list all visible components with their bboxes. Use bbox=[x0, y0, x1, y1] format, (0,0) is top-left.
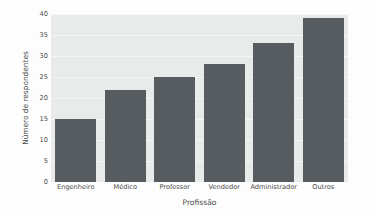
gridline bbox=[51, 14, 348, 15]
x-axis-tick-label: Administrador bbox=[250, 184, 297, 191]
bar bbox=[105, 90, 146, 182]
y-axis-tick-labels: 0510152025303540 bbox=[32, 14, 48, 182]
bar-chart-figure: Número de respondentes 0510152025303540 … bbox=[0, 0, 375, 215]
y-axis-tick-label: 40 bbox=[34, 11, 48, 18]
x-axis-tick-label: Professor bbox=[160, 184, 190, 191]
y-axis-tick-label: 5 bbox=[34, 158, 48, 165]
bar bbox=[204, 64, 245, 182]
x-axis-tick-label: Engenheiro bbox=[57, 184, 94, 191]
plot-area bbox=[51, 14, 348, 182]
bar bbox=[253, 43, 294, 182]
y-axis-tick-label: 35 bbox=[34, 32, 48, 39]
x-axis-tick-label: Vendedor bbox=[209, 184, 240, 191]
y-axis-tick-label: 15 bbox=[34, 116, 48, 123]
x-axis-tick-label: Outros bbox=[312, 184, 334, 191]
x-axis-tick-label: Médico bbox=[114, 184, 137, 191]
y-axis-tick-label: 30 bbox=[34, 53, 48, 60]
y-axis-tick-label: 20 bbox=[34, 95, 48, 102]
y-axis-label-text: Número de respondentes bbox=[21, 51, 30, 145]
x-axis-tick-labels: EngenheiroMédicoProfessorVendedorAdminis… bbox=[51, 184, 348, 196]
y-axis-tick-label: 25 bbox=[34, 74, 48, 81]
bar bbox=[303, 18, 344, 182]
bar bbox=[154, 77, 195, 182]
x-axis-label: Profissão bbox=[51, 198, 348, 207]
bar bbox=[55, 119, 96, 182]
y-axis-tick-label: 10 bbox=[34, 137, 48, 144]
y-axis-label: Número de respondentes bbox=[18, 14, 32, 182]
y-axis-tick-label: 0 bbox=[34, 179, 48, 186]
